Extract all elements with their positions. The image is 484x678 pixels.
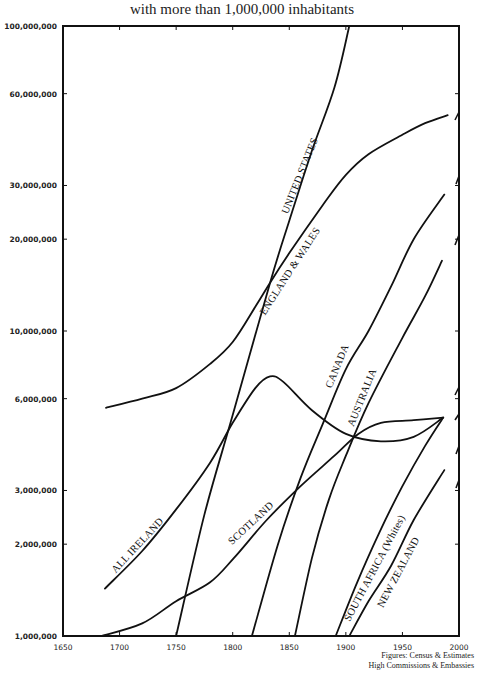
series-label-united-states: UNITED STATES xyxy=(279,136,319,215)
source-line-1: Figures: Census & Estimates xyxy=(381,651,474,660)
x-tick-label: 1900 xyxy=(336,643,355,652)
plot-frame xyxy=(63,26,459,636)
y-tick-label: 2,000,000 xyxy=(15,540,57,549)
x-tick-label: 1850 xyxy=(280,643,299,652)
series-line-united-states xyxy=(176,26,349,636)
y-tick-label: 6,000,000 xyxy=(15,395,57,404)
x-tick-label: 1700 xyxy=(110,643,129,652)
x-tick-label: 1750 xyxy=(167,643,186,652)
population-chart: 1,000,0002,000,0003,000,0006,000,00010,0… xyxy=(0,0,484,678)
source-line-2: High Commissions & Embassies xyxy=(368,661,474,670)
y-tick-label: 30,000,000 xyxy=(10,181,57,190)
series-label-all-ireland: ALL IRELAND xyxy=(109,515,166,575)
y-tick-label: 20,000,000 xyxy=(10,235,57,244)
y-tick-label: 100,000,000 xyxy=(4,22,57,31)
series-curves xyxy=(102,26,448,636)
x-tick-label: 1650 xyxy=(53,643,72,652)
y-tick-label: 60,000,000 xyxy=(10,90,57,99)
y-tick-label: 1,000,000 xyxy=(15,632,57,641)
series-label-england-wales: ENGLAND & WALES xyxy=(257,225,322,317)
x-tick-label: 1800 xyxy=(223,643,242,652)
series-labels: UNITED STATESENGLAND & WALESALL IRELANDS… xyxy=(109,136,421,623)
y-tick-label: 10,000,000 xyxy=(10,327,57,336)
y-tick-label: 3,000,000 xyxy=(15,486,57,495)
